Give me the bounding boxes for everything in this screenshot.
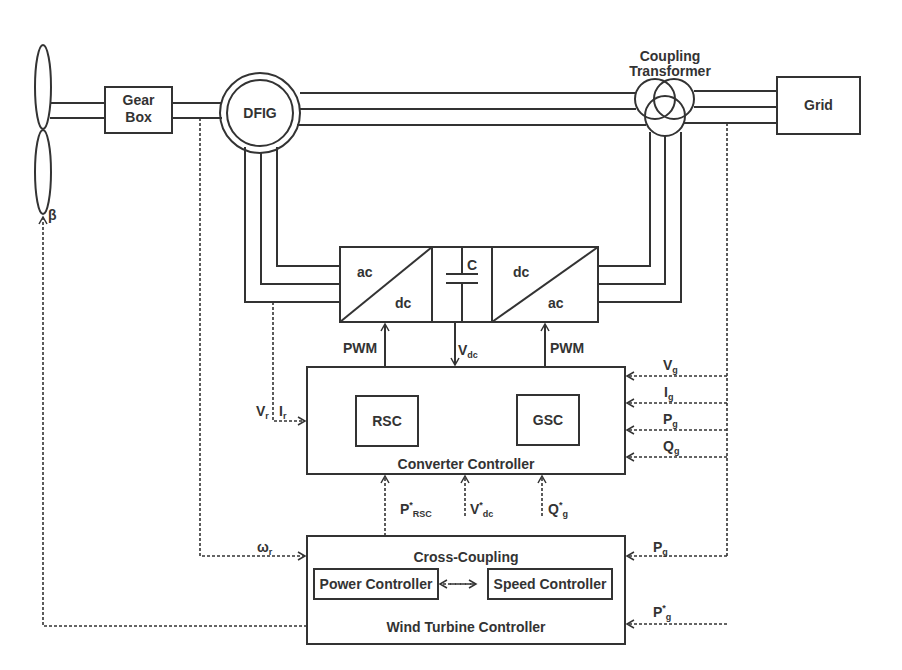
gsc-converter-dc-label: dc bbox=[513, 265, 529, 279]
wind-turbine-controller-title: Wind Turbine Controller bbox=[307, 620, 625, 634]
pg-ref-label: P*g bbox=[653, 604, 671, 622]
transformer-label: Coupling Transformer bbox=[620, 49, 720, 79]
cross-coupling-label: Cross-Coupling bbox=[307, 550, 625, 564]
rsc-converter-dc-label: dc bbox=[395, 296, 411, 310]
transformer-label-line1: Coupling bbox=[640, 48, 701, 64]
vdc-ref-label: V*dc bbox=[470, 501, 493, 519]
vdc-label: Vdc bbox=[458, 343, 478, 360]
speed-controller-label: Speed Controller bbox=[488, 577, 612, 591]
qg-label: Qg bbox=[663, 439, 679, 456]
transformer-label-line2: Transformer bbox=[629, 63, 711, 79]
vg-label: Vg bbox=[663, 358, 678, 375]
pitch-angle-label: β bbox=[48, 208, 57, 222]
pg-label: Pg bbox=[663, 412, 678, 429]
transformer-icon bbox=[635, 79, 694, 136]
dc-link-capacitor-label: C bbox=[467, 258, 477, 272]
gearbox-label-line1: Gear bbox=[123, 92, 155, 108]
vr-label: Vr bbox=[256, 404, 269, 421]
rsc-label: RSC bbox=[356, 414, 418, 428]
gearbox-label: Gear Box bbox=[105, 92, 172, 126]
ig-label: Ig bbox=[664, 385, 673, 402]
gearbox-label-line2: Box bbox=[125, 109, 151, 125]
gsc-label: GSC bbox=[517, 413, 579, 427]
qg-ref-label: Q*g bbox=[548, 501, 568, 519]
ir-label: Ir bbox=[279, 404, 286, 421]
rsc-converter-ac-label: ac bbox=[357, 265, 373, 279]
pwm-rsc-label: PWM bbox=[343, 341, 377, 355]
pwm-gsc-label: PWM bbox=[550, 341, 584, 355]
pg-wtc-label: Pg bbox=[653, 540, 668, 557]
power-controller-label: Power Controller bbox=[314, 577, 438, 591]
wind-turbine-rotor-icon bbox=[35, 45, 51, 214]
grid-label: Grid bbox=[777, 98, 860, 112]
gsc-converter-ac-label: ac bbox=[548, 296, 564, 310]
converter-controller-title: Converter Controller bbox=[307, 457, 625, 471]
dfig-label: DFIG bbox=[230, 106, 290, 120]
p-rsc-ref-label: P*RSC bbox=[400, 501, 432, 519]
omega-r-label: ωr bbox=[257, 540, 272, 557]
